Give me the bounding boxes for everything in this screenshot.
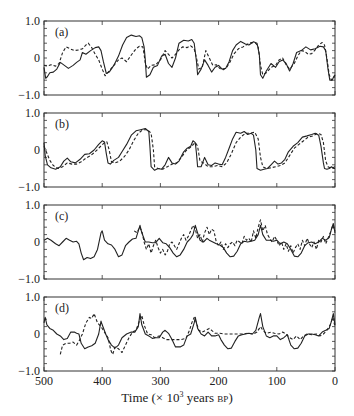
y-tick-label: 1.0	[25, 198, 40, 212]
x-tick-label: 200	[210, 374, 228, 388]
y-tick-label: −1.0	[18, 272, 40, 286]
x-axis-label-unit: BP	[217, 394, 228, 404]
y-tick-label: −1.0	[18, 180, 40, 194]
y-tick-label: 0	[34, 143, 40, 157]
x-tick-label: 500	[35, 374, 53, 388]
y-tick-label: 0	[34, 235, 40, 249]
model-series-solid	[44, 224, 335, 260]
plot-frame	[44, 21, 335, 95]
plot-frame	[44, 297, 335, 371]
plot-frame	[44, 205, 335, 279]
panel-b: 1.00−1.0(b)	[18, 106, 335, 194]
plot-frame	[44, 113, 335, 187]
x-axis-label: Time (× 103 years BP)	[0, 390, 354, 406]
data-series-dashed	[44, 130, 335, 170]
x-tick-label: 300	[151, 374, 169, 388]
panel-label: (d)	[55, 301, 69, 315]
model-series-solid	[44, 35, 335, 80]
y-tick-label: 1.0	[25, 106, 40, 120]
y-tick-label: 0	[34, 327, 40, 341]
x-axis-label-mid: years	[183, 390, 217, 405]
panel-a: 1.00−1.0(a)	[18, 14, 335, 102]
y-tick-label: 1.0	[25, 14, 40, 28]
model-series-solid	[44, 129, 335, 171]
panel-d: 1.00−1.0(d)5004003002001000	[18, 290, 338, 388]
data-series-dashed	[134, 220, 335, 255]
panel-label: (a)	[55, 25, 68, 39]
y-tick-label: −1.0	[18, 88, 40, 102]
x-tick-label: 400	[93, 374, 111, 388]
y-tick-label: 0	[34, 51, 40, 65]
x-axis-label-close: )	[228, 390, 232, 405]
panel-label: (b)	[55, 117, 69, 131]
stacked-line-chart: 1.00−1.0(a)1.00−1.0(b)1.00−1.0(c)1.00−1.…	[0, 0, 354, 416]
x-axis-label-pre: Time (× 10	[121, 390, 179, 405]
panel-c: 1.00−1.0(c)	[18, 198, 335, 286]
x-tick-label: 100	[268, 374, 286, 388]
x-tick-label: 0	[332, 374, 338, 388]
y-tick-label: 1.0	[25, 290, 40, 304]
panel-label: (c)	[55, 209, 68, 223]
data-series-dashed	[44, 43, 335, 81]
